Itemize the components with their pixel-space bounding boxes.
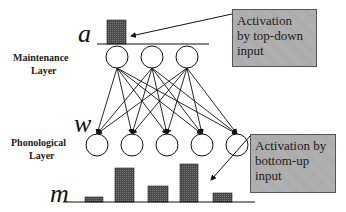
- weight-connections: [97, 68, 237, 134]
- bottom-up-callout-line-3: input: [255, 168, 331, 183]
- top-down-callout-line-3: input: [237, 43, 312, 58]
- bottom-up-callout-line-2: bottom-up: [255, 153, 331, 168]
- activation-m-bar: [213, 193, 232, 202]
- top-down-callout-line-2: by top-down: [237, 28, 312, 43]
- phonological-node: [226, 134, 248, 156]
- activation-m-bar: [148, 186, 168, 202]
- phonological-node: [156, 134, 178, 156]
- phonological-layer-label-1: Phonological: [11, 137, 66, 148]
- activation-m-bars: [85, 164, 232, 202]
- label-w: w: [74, 109, 92, 138]
- label-m: m: [50, 179, 69, 208]
- activation-m-bar: [85, 197, 103, 202]
- maintenance-node: [106, 46, 128, 68]
- phonological-node: [191, 134, 213, 156]
- maintenance-layer-nodes: [106, 46, 198, 68]
- bottom-up-callout: Activation by bottom-up input: [250, 134, 336, 193]
- top-down-callout: Activation by top-down input: [232, 9, 317, 67]
- activation-m-bar: [115, 168, 134, 202]
- activation-a-bar: [107, 20, 126, 44]
- maintenance-layer-label-1: Maintenance: [13, 52, 69, 63]
- label-a: a: [78, 19, 91, 48]
- phonological-node: [121, 134, 143, 156]
- top-down-arrow: [131, 14, 232, 36]
- bottom-up-callout-line-1: Activation by: [255, 138, 331, 153]
- phonological-layer-nodes: [86, 134, 248, 156]
- activation-m-bar: [180, 164, 198, 202]
- maintenance-layer-label-2: Layer: [31, 65, 57, 76]
- maintenance-node: [141, 46, 163, 68]
- phonological-layer-label-2: Layer: [29, 150, 55, 161]
- maintenance-node: [176, 46, 198, 68]
- phonological-node: [86, 134, 108, 156]
- top-down-callout-line-1: Activation: [237, 13, 312, 28]
